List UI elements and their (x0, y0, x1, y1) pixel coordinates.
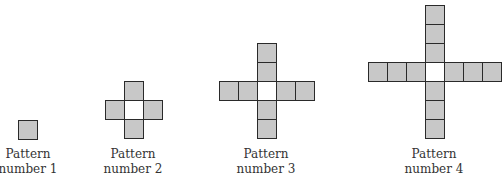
shaded-tile (425, 5, 445, 25)
pattern-4-label: Pattern number 4 (389, 147, 479, 177)
shaded-tile (276, 81, 296, 101)
shaded-tile (425, 100, 445, 120)
center-tile (425, 62, 445, 82)
shaded-tile (219, 81, 239, 101)
shaded-tile (124, 81, 144, 101)
shaded-tile (425, 81, 445, 101)
center-tile (18, 120, 38, 140)
shaded-tile (463, 62, 483, 82)
pattern-label-line1: Pattern (88, 147, 178, 162)
pattern-label-line1: Pattern (389, 147, 479, 162)
pattern-2-label: Pattern number 2 (88, 147, 178, 177)
pattern-label-line1: Pattern (0, 147, 73, 162)
pattern-label-line2: number 2 (88, 162, 178, 177)
shaded-tile (482, 62, 502, 82)
shaded-tile (257, 119, 277, 139)
shaded-tile (257, 100, 277, 120)
shaded-tile (143, 100, 163, 120)
shaded-tile (444, 62, 464, 82)
shaded-tile (105, 100, 125, 120)
shaded-tile (425, 43, 445, 63)
pattern-label-line2: number 3 (221, 162, 311, 177)
shaded-tile (257, 43, 277, 63)
shaded-tile (257, 62, 277, 82)
shaded-tile (368, 62, 388, 82)
shaded-tile (295, 81, 315, 101)
center-tile (124, 100, 144, 120)
shaded-tile (124, 119, 144, 139)
shaded-tile (406, 62, 426, 82)
pattern-3-label: Pattern number 3 (221, 147, 311, 177)
shaded-tile (387, 62, 407, 82)
shaded-tile (425, 119, 445, 139)
pattern-label-line2: number 4 (389, 162, 479, 177)
shaded-tile (425, 24, 445, 44)
pattern-1-label: Pattern number 1 (0, 147, 73, 177)
center-tile (257, 81, 277, 101)
shaded-tile (238, 81, 258, 101)
pattern-label-line1: Pattern (221, 147, 311, 162)
pattern-label-line2: number 1 (0, 162, 73, 177)
